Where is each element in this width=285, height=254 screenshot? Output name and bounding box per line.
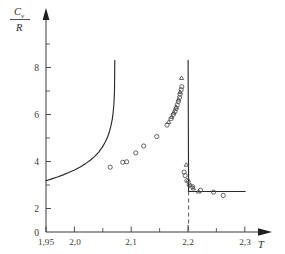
y-ticklabel: 4 <box>34 156 39 167</box>
x-axis-ticks <box>46 225 245 232</box>
figure-container: 0 2 4 6 8 1,95 2,0 2,1 2,2 2,3 Cv R T <box>0 0 285 254</box>
y-ticklabel: 6 <box>34 109 39 120</box>
data-markers-triangles <box>167 76 201 193</box>
x-ticklabel: 2,2 <box>182 237 194 247</box>
theory-curve-group <box>46 60 245 191</box>
data-point-circle <box>180 85 184 89</box>
theory-curve-rising <box>46 60 115 180</box>
data-point-circle <box>155 135 159 139</box>
data-point-circle <box>221 193 225 197</box>
y-ticklabel: 8 <box>34 62 39 73</box>
x-axis-arrow-icon <box>258 228 272 236</box>
y-ticklabel: 0 <box>34 227 39 238</box>
data-markers-circles <box>108 85 225 198</box>
x-ticklabel: 2,3 <box>239 237 251 247</box>
y-axis-title-numerator: Cv <box>14 6 25 20</box>
data-point-circle <box>125 160 129 164</box>
y-axis-arrow-icon <box>43 8 50 20</box>
data-point-circle <box>142 144 146 148</box>
data-point-triangle <box>184 163 188 167</box>
y-axis-ticks <box>46 44 51 209</box>
y-axis-title: Cv R <box>10 6 30 33</box>
x-axis-title: T <box>258 239 265 250</box>
y-axis-title-subscript: v <box>21 12 25 20</box>
data-point-circle <box>121 160 125 164</box>
data-point-circle <box>212 190 216 194</box>
axes-group <box>43 8 272 236</box>
x-ticklabel: 2,1 <box>125 237 137 247</box>
y-axis-title-denominator: R <box>15 22 23 33</box>
theory-curve-drop <box>188 60 189 191</box>
y-axis-ticklabels: 0 2 4 6 8 <box>34 62 39 238</box>
data-point-triangle <box>179 76 183 80</box>
x-ticklabel: 2,0 <box>69 237 81 247</box>
y-ticklabel: 2 <box>34 203 39 214</box>
chart-canvas: 0 2 4 6 8 1,95 2,0 2,1 2,2 2,3 Cv R T <box>0 0 285 254</box>
data-point-circle <box>134 151 138 155</box>
x-ticklabel: 1,95 <box>38 237 54 247</box>
x-axis-ticklabels: 1,95 2,0 2,1 2,2 2,3 <box>38 237 251 247</box>
data-point-circle <box>108 165 112 169</box>
